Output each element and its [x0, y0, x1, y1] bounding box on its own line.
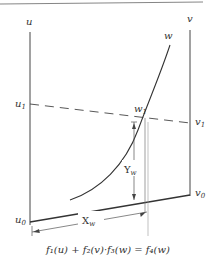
v-axis-label: v — [187, 13, 193, 24]
u-axis-label: u — [26, 16, 32, 27]
w-curve — [70, 45, 170, 200]
u1-label: u1 — [15, 98, 26, 111]
y-arrow-bottom-icon — [132, 194, 136, 200]
w1-label: w1 — [134, 103, 147, 116]
x-arrow-left-icon — [33, 229, 40, 233]
u0-label: u0 — [15, 214, 26, 227]
top-rule — [0, 2, 203, 4]
v1-label: v1 — [195, 116, 205, 129]
v0-label: v0 — [195, 187, 206, 200]
baseline-u0-v0 — [30, 195, 190, 222]
w-curve-label: w — [164, 30, 173, 41]
equation-caption: f₁(u) + f₂(v)·f₃(w) = f₄(w) — [45, 244, 170, 255]
y-arrow-top-icon — [132, 123, 136, 129]
nomogram-diagram: u v u1 u0 v1 v0 w w1 Yw Xw f₁(u) + f₂(v)… — [0, 0, 217, 262]
isopleth-dashed-line — [30, 104, 190, 123]
